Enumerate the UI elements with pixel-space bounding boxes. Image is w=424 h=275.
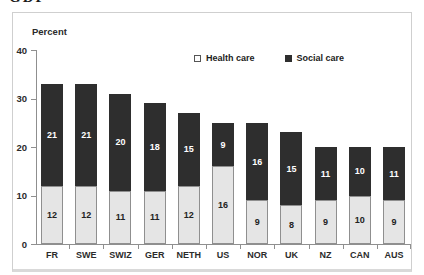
bar-neth: 1512 xyxy=(178,113,200,244)
value-label-health-ger: 11 xyxy=(150,212,160,222)
chart-frame: Percent Health careSocial care 403020100… xyxy=(12,12,412,272)
clipped-page-title: GDP xyxy=(9,0,79,5)
segment-health-care-swe: 12 xyxy=(75,186,97,244)
value-label-social-uk: 15 xyxy=(286,164,296,174)
value-label-social-nor: 16 xyxy=(252,157,262,167)
value-label-health-aus: 9 xyxy=(391,217,396,227)
value-label-health-us: 16 xyxy=(218,200,228,210)
bar-slot-can: 1010CAN xyxy=(343,13,377,244)
value-label-social-aus: 11 xyxy=(389,169,399,179)
value-label-health-nz: 9 xyxy=(323,217,328,227)
value-label-health-nor: 9 xyxy=(255,217,260,227)
segment-health-care-nor: 9 xyxy=(246,200,268,244)
y-tick-label-0: 0 xyxy=(13,239,27,250)
y-tick-label-30: 30 xyxy=(13,93,27,104)
bar-swiz: 2011 xyxy=(109,94,131,244)
segment-health-care-us: 16 xyxy=(212,166,234,244)
segment-health-care-aus: 9 xyxy=(383,200,405,244)
segment-social-care-nor: 16 xyxy=(246,123,268,201)
bar-slot-nor: 169NOR xyxy=(240,13,274,244)
x-axis-line xyxy=(36,244,411,245)
x-category-label-neth: NETH xyxy=(172,250,206,260)
value-label-social-us: 9 xyxy=(221,140,226,150)
segment-social-care-ger: 18 xyxy=(144,103,166,190)
bar-slot-nz: 119NZ xyxy=(309,13,343,244)
bar-slot-us: 916US xyxy=(206,13,240,244)
segment-health-care-nz: 9 xyxy=(315,200,337,244)
segment-social-care-aus: 11 xyxy=(383,147,405,200)
value-label-social-neth: 15 xyxy=(184,144,194,154)
bar-nz: 119 xyxy=(315,147,337,244)
segment-social-care-can: 10 xyxy=(349,147,371,196)
x-category-label-ger: GER xyxy=(138,250,172,260)
value-label-social-can: 10 xyxy=(355,166,365,176)
segment-health-care-can: 10 xyxy=(349,196,371,245)
value-label-health-uk: 8 xyxy=(289,220,294,230)
segment-social-care-swe: 21 xyxy=(75,84,97,186)
y-tick-label-10: 10 xyxy=(13,190,27,201)
x-category-label-nz: NZ xyxy=(309,250,343,260)
value-label-social-fr: 21 xyxy=(47,130,57,140)
value-label-social-swe: 21 xyxy=(81,130,91,140)
segment-social-care-nz: 11 xyxy=(315,147,337,200)
bar-slot-neth: 1512NETH xyxy=(172,13,206,244)
y-tick-label-40: 40 xyxy=(13,45,27,56)
value-label-social-swiz: 20 xyxy=(115,137,125,147)
bar-slot-fr: 2112FR xyxy=(35,13,69,244)
x-category-label-swiz: SWIZ xyxy=(103,250,137,260)
value-label-health-swiz: 11 xyxy=(116,212,126,222)
y-tick-label-20: 20 xyxy=(13,142,27,153)
clipped-page-title-text: GDP xyxy=(9,0,79,5)
screen: GDP Percent Health careSocial care 40302… xyxy=(0,0,424,275)
value-label-health-swe: 12 xyxy=(81,210,91,220)
x-category-label-nor: NOR xyxy=(240,250,274,260)
bar-uk: 158 xyxy=(280,132,302,244)
segment-social-care-swiz: 20 xyxy=(109,94,131,191)
bar-slot-swe: 2112SWE xyxy=(69,13,103,244)
segment-health-care-swiz: 11 xyxy=(109,191,131,244)
segment-health-care-ger: 11 xyxy=(144,191,166,244)
bar-us: 916 xyxy=(212,123,234,244)
value-label-health-neth: 12 xyxy=(184,210,194,220)
bar-aus: 119 xyxy=(383,147,405,244)
segment-health-care-uk: 8 xyxy=(280,205,302,244)
segment-social-care-uk: 15 xyxy=(280,132,302,205)
bar-slot-aus: 119AUS xyxy=(377,13,411,244)
bar-slot-ger: 1811GER xyxy=(138,13,172,244)
x-category-label-aus: AUS xyxy=(377,250,411,260)
segment-social-care-us: 9 xyxy=(212,123,234,167)
segment-health-care-fr: 12 xyxy=(41,186,63,244)
value-label-social-ger: 18 xyxy=(150,142,160,152)
x-category-label-swe: SWE xyxy=(69,250,103,260)
segment-health-care-neth: 12 xyxy=(178,186,200,244)
value-label-health-can: 10 xyxy=(355,215,365,225)
plot-area: 2112FR2112SWE2011SWIZ1811GER1512NETH916U… xyxy=(35,13,411,244)
segment-social-care-fr: 21 xyxy=(41,84,63,186)
bar-swe: 2112 xyxy=(75,84,97,244)
x-category-label-fr: FR xyxy=(35,250,69,260)
bar-nor: 169 xyxy=(246,123,268,244)
bar-can: 1010 xyxy=(349,147,371,244)
x-category-label-us: US xyxy=(206,250,240,260)
bar-fr: 2112 xyxy=(41,84,63,244)
bar-slot-uk: 158UK xyxy=(274,13,308,244)
bar-ger: 1811 xyxy=(144,103,166,244)
value-label-social-nz: 11 xyxy=(321,169,331,179)
x-category-label-uk: UK xyxy=(274,250,308,260)
bar-slot-swiz: 2011SWIZ xyxy=(103,13,137,244)
segment-social-care-neth: 15 xyxy=(178,113,200,186)
x-category-label-can: CAN xyxy=(343,250,377,260)
value-label-health-fr: 12 xyxy=(47,210,57,220)
